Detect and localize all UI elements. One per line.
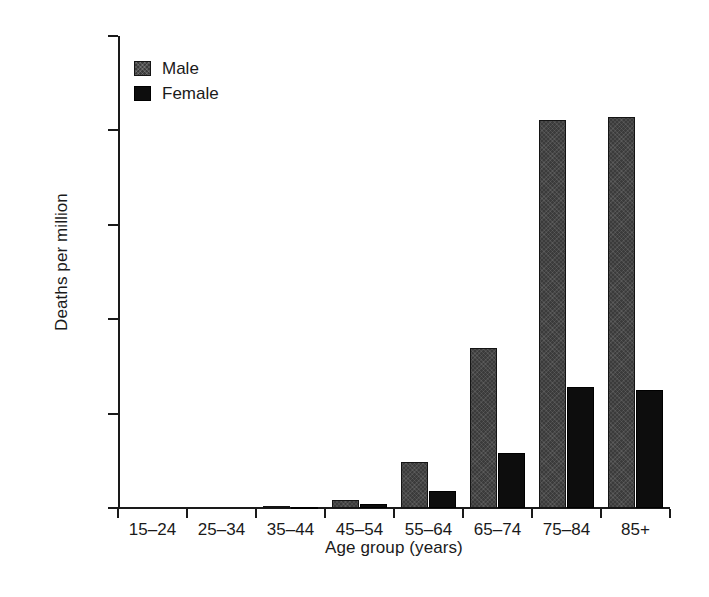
x-tick-label: 35–44 — [251, 519, 331, 540]
x-tick — [462, 509, 464, 518]
chart-legend: Male Female — [134, 56, 219, 106]
legend-item-female: Female — [134, 81, 219, 106]
x-tick-label: 45–54 — [320, 519, 400, 540]
x-axis-label: Age group (years) — [118, 538, 670, 558]
x-tick-label: 55–64 — [389, 519, 469, 540]
x-tick-label: 85+ — [596, 519, 676, 540]
x-tick — [600, 509, 602, 518]
bar-male — [263, 506, 290, 508]
x-tick — [324, 509, 326, 518]
y-tick — [108, 413, 118, 415]
x-tick-label: 75–84 — [527, 519, 607, 540]
x-tick — [117, 509, 119, 518]
x-tick — [186, 509, 188, 518]
bar-male — [332, 500, 359, 508]
bar-male — [470, 348, 497, 508]
y-axis-label: Deaths per million — [52, 112, 72, 412]
bar-female — [429, 491, 456, 508]
bar-male — [401, 462, 428, 508]
x-tick — [669, 509, 671, 518]
x-tick-label: 65–74 — [458, 519, 538, 540]
legend-label-female: Female — [162, 85, 219, 102]
bar-female — [291, 507, 318, 509]
legend-label-male: Male — [162, 60, 199, 77]
x-tick — [393, 509, 395, 518]
bar-male — [608, 117, 635, 508]
bar-female — [567, 387, 594, 508]
bar-female — [636, 390, 663, 508]
legend-swatch-male-icon — [134, 61, 151, 76]
x-tick-label: 25–34 — [182, 519, 262, 540]
y-tick — [108, 35, 118, 37]
bar-male — [539, 120, 566, 508]
y-tick — [108, 129, 118, 131]
x-tick — [531, 509, 533, 518]
y-tick — [108, 318, 118, 320]
bar-chart: Deaths per million Age group (years) 050… — [0, 0, 709, 597]
x-tick-label: 15–24 — [113, 519, 193, 540]
x-tick — [255, 509, 257, 518]
legend-swatch-female-icon — [134, 86, 151, 101]
y-tick — [108, 224, 118, 226]
bar-female — [498, 453, 525, 508]
bar-female — [360, 504, 387, 508]
legend-item-male: Male — [134, 56, 219, 81]
y-axis-line — [118, 36, 120, 509]
